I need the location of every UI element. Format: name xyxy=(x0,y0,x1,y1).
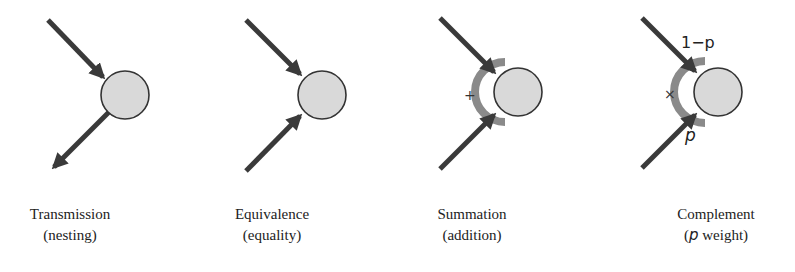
incoming-arrow-bottom xyxy=(440,115,494,169)
top-weight-label: 1−p xyxy=(681,33,715,52)
bottom-weight-label: p xyxy=(685,125,696,145)
caption-title: Transmission xyxy=(0,204,150,225)
incoming-arrow-top xyxy=(246,20,300,74)
caption-subtitle: (nesting) xyxy=(0,225,150,246)
node-circle xyxy=(298,71,346,119)
outgoing-arrow xyxy=(54,112,109,167)
caption-summation: Summation (addition) xyxy=(392,204,552,246)
node-circle xyxy=(101,71,149,119)
node-circle xyxy=(494,68,542,116)
product-operator: × xyxy=(664,86,676,102)
node-circle xyxy=(694,68,742,116)
caption-transmission: Transmission (nesting) xyxy=(0,204,150,246)
panel-equivalence xyxy=(246,20,346,171)
caption-subtitle: (addition) xyxy=(392,225,552,246)
caption-title: Complement xyxy=(636,204,795,225)
caption-subtitle: (equality) xyxy=(192,225,352,246)
caption-subtitle: (p weight) xyxy=(636,225,795,246)
caption-title: Equivalence xyxy=(192,204,352,225)
incoming-arrow-bottom xyxy=(246,116,300,171)
panel-transmission xyxy=(48,20,149,167)
caption-rest: weight) xyxy=(698,227,748,243)
incoming-arrow-top xyxy=(440,18,494,72)
sum-operator: + xyxy=(464,87,476,103)
caption-title: Summation xyxy=(392,204,552,225)
panel-summation xyxy=(440,18,542,169)
caption-complement: Complement (p weight) xyxy=(636,204,795,246)
caption-equivalence: Equivalence (equality) xyxy=(192,204,352,246)
incoming-arrow xyxy=(48,20,103,77)
